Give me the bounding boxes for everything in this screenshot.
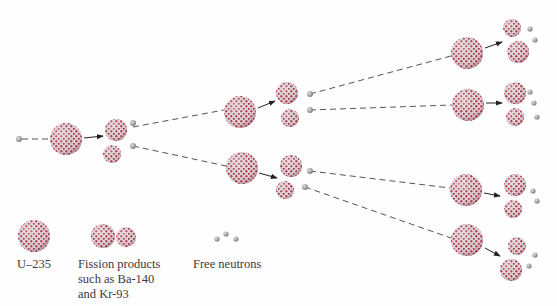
u235-nucleus-icon xyxy=(450,174,482,206)
u235-nucleus-icon xyxy=(224,96,256,128)
legend-fission-line-3: and Kr-93 xyxy=(78,287,160,302)
neutron-paths xyxy=(22,56,452,238)
u235-nucleus-icon xyxy=(452,89,484,121)
legend-u235-label: U–235 xyxy=(17,257,51,272)
legend-icons xyxy=(18,220,239,252)
u235-nucleus-icon xyxy=(226,152,258,184)
legend-neutrons-label: Free neutrons xyxy=(193,257,261,272)
legend-neutrons-icon xyxy=(214,231,238,241)
legend-fission-line-2: such as Ba-140 xyxy=(78,272,160,287)
fission-chain-diagram: U–235 Fission products such as Ba-140 an… xyxy=(0,0,557,306)
legend-fission-label: Fission products such as Ba-140 and Kr-9… xyxy=(78,257,160,302)
legend-fission-icon xyxy=(91,224,136,248)
u235-nucleus-icon xyxy=(451,37,483,69)
neutron-icon xyxy=(16,136,22,142)
u235-nucleus-icon xyxy=(50,123,82,155)
legend-u235-icon xyxy=(18,220,50,252)
legend-fission-line-1: Fission products xyxy=(78,257,160,272)
u235-nucleus-icon xyxy=(451,224,483,256)
